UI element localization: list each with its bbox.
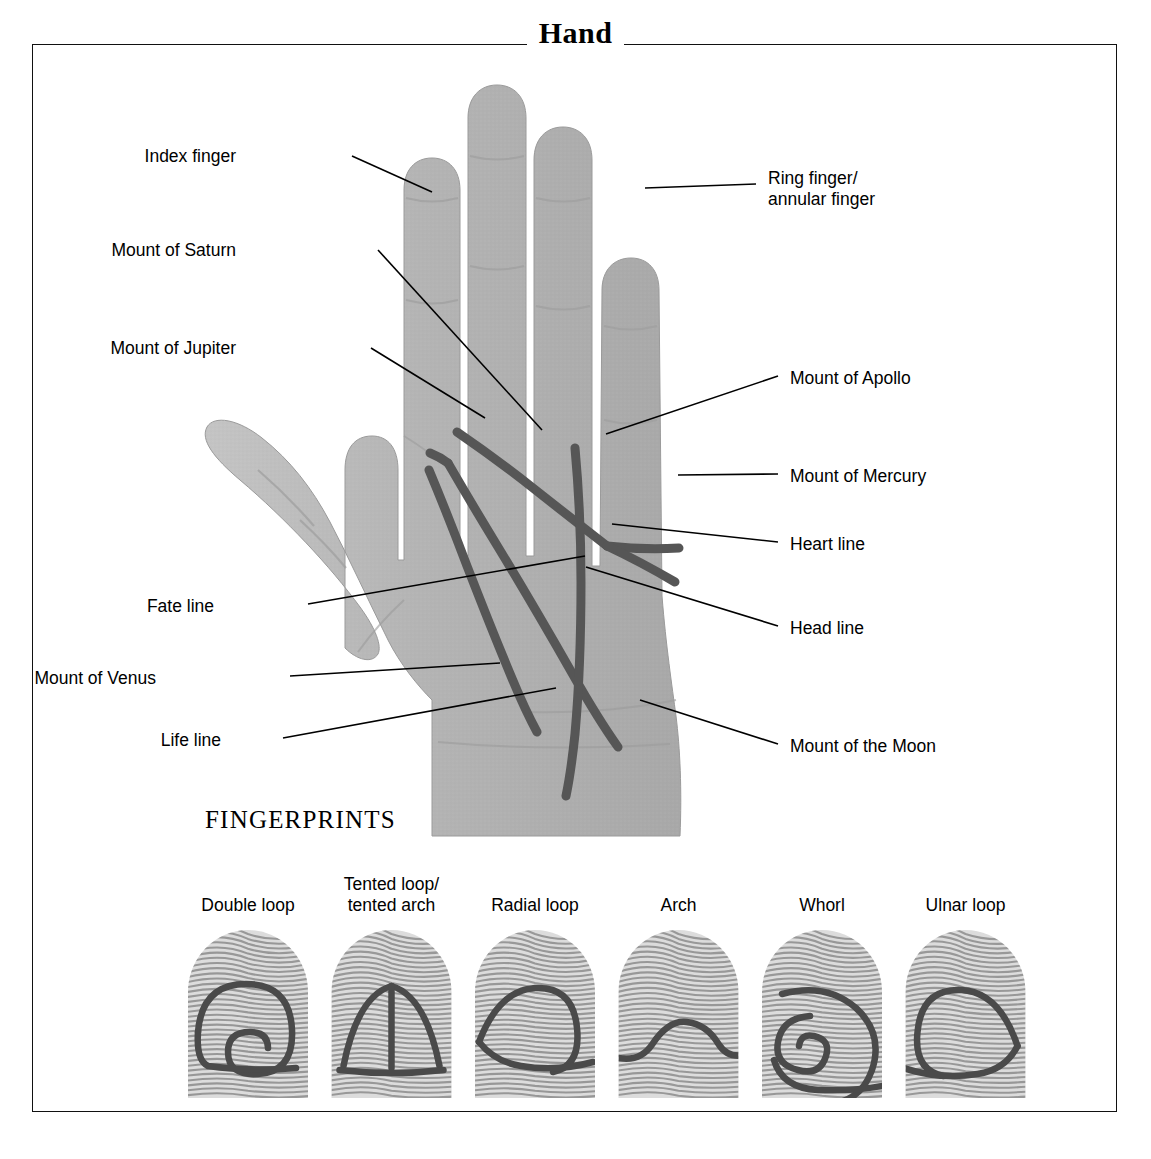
fingerprint-tented-arch: [328, 926, 456, 1098]
label-life-line: Life line: [161, 730, 221, 751]
fingerprint-ulnar-loop: [902, 926, 1030, 1098]
label-index-finger: Index finger: [145, 146, 236, 167]
hand-diagram: [0, 0, 1151, 1159]
label-mount-of-jupiter: Mount of Jupiter: [111, 338, 236, 359]
label-mount-of-the-moon: Mount of the Moon: [790, 736, 936, 757]
label-ring-finger: Ring finger/ annular finger: [768, 168, 875, 210]
fingerprints-heading: FINGERPRINTS: [205, 806, 396, 834]
label-heart-line: Heart line: [790, 534, 865, 555]
label-fate-line: Fate line: [147, 596, 214, 617]
label-mount-of-apollo: Mount of Apollo: [790, 368, 911, 389]
fingerprint-double-loop: [184, 927, 312, 1098]
fingerprint-row: [184, 926, 1030, 1104]
label-mount-of-saturn: Mount of Saturn: [111, 240, 236, 261]
fingerprint-whorl: [758, 927, 900, 1104]
fingerprint-label-ulnar-loop: Ulnar loop: [881, 895, 1051, 916]
leader-mount-mercury: [678, 474, 778, 475]
leader-ring-finger: [645, 184, 756, 188]
fingerprint-radial-loop: [471, 927, 599, 1098]
page-title: Hand: [0, 18, 1151, 48]
label-head-line: Head line: [790, 618, 864, 639]
label-mount-of-venus: Mount of Venus: [34, 668, 156, 689]
label-mount-of-mercury: Mount of Mercury: [790, 466, 926, 487]
fingerprint-arch: [615, 926, 749, 1098]
